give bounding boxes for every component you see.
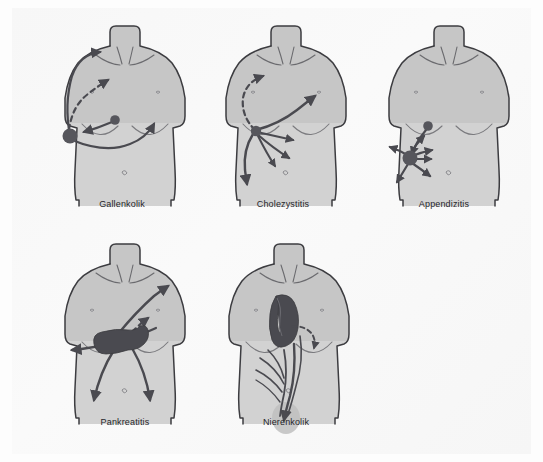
caption-gallenkolik: Gallenkolik	[82, 199, 162, 209]
primary-pain-point	[251, 126, 261, 136]
caption-appendizitis: Appendizitis	[404, 199, 484, 209]
panel-nierenkolik	[229, 244, 349, 434]
figure-root: Gallenkolik Cholezystitis Appendizitis P…	[0, 0, 543, 462]
panel-cholezystitis	[226, 26, 346, 206]
primary-pain-point	[403, 151, 418, 166]
panel-gallenkolik	[63, 26, 186, 206]
primary-pain-point	[63, 129, 78, 144]
panel-pankreatitis	[65, 244, 185, 424]
caption-nierenkolik: Nierenkolik	[246, 417, 326, 427]
kidney-organ	[269, 295, 298, 347]
secondary-pain-point	[110, 115, 120, 125]
torso-silhouette	[226, 26, 346, 206]
caption-cholezystitis: Cholezystitis	[243, 199, 323, 209]
panel-appendizitis	[389, 26, 509, 206]
torso-silhouette	[65, 26, 185, 206]
secondary-pain-point	[423, 121, 433, 131]
torso-silhouette	[389, 26, 509, 206]
caption-pankreatitis: Pankreatitis	[85, 417, 165, 427]
anatomy-illustration	[0, 0, 543, 462]
